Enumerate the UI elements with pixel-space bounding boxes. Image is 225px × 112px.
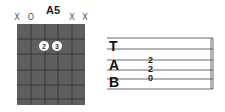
tab-letter-t: T — [109, 40, 118, 52]
chord-diagram-figure: A5 X O X X 2 3 T A — [0, 0, 225, 112]
tab-note: 0 — [148, 74, 153, 83]
tab-staff — [107, 38, 213, 89]
finger-label: 2 — [40, 42, 48, 51]
tab-letter-a: A — [109, 59, 119, 71]
tab-letter-b: B — [109, 76, 119, 88]
fretboard — [0, 0, 225, 112]
finger-label: 3 — [53, 42, 61, 51]
